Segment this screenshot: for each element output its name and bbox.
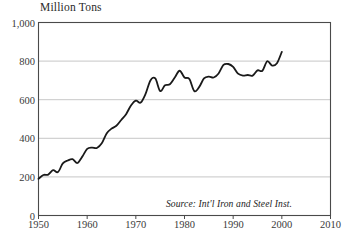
x-tick-label: 1990 <box>223 219 244 230</box>
chart-figure: Million Tons 02004006008001,000 19501960… <box>0 0 357 249</box>
x-tick-label: 1960 <box>77 219 98 230</box>
x-tick-label: 2000 <box>271 219 292 230</box>
x-tick-label: 1970 <box>125 219 146 230</box>
x-tick-label: 1950 <box>28 219 49 230</box>
data-line-world-steel-production <box>39 52 282 179</box>
x-tick-label: 1980 <box>174 219 195 230</box>
plot-area <box>0 0 357 249</box>
x-tick-label: 2010 <box>320 219 341 230</box>
plot-border <box>39 23 331 216</box>
source-note: Source: Int'l Iron and Steel Inst. <box>166 198 292 209</box>
plot-frame <box>39 23 331 216</box>
